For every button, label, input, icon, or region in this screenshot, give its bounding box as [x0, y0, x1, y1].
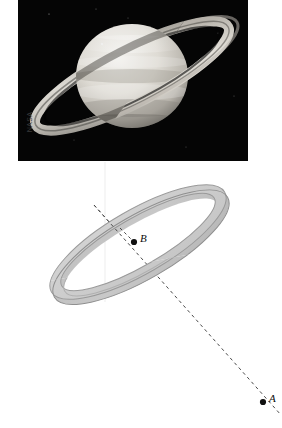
point-a-label: A [269, 393, 276, 404]
photo-credit-nasa: NASA [26, 100, 34, 144]
saturn-ring-figure: NASA [0, 0, 282, 428]
saturn-photo-graphic [18, 0, 248, 161]
ring-diagram-graphic [0, 162, 282, 428]
ring-diagram: B A [0, 162, 282, 428]
moon-speck [101, 43, 103, 45]
point-b-marker [131, 239, 137, 245]
saturn-photograph: NASA [18, 0, 248, 161]
point-b-label: B [140, 233, 147, 244]
point-a-marker [260, 399, 266, 405]
